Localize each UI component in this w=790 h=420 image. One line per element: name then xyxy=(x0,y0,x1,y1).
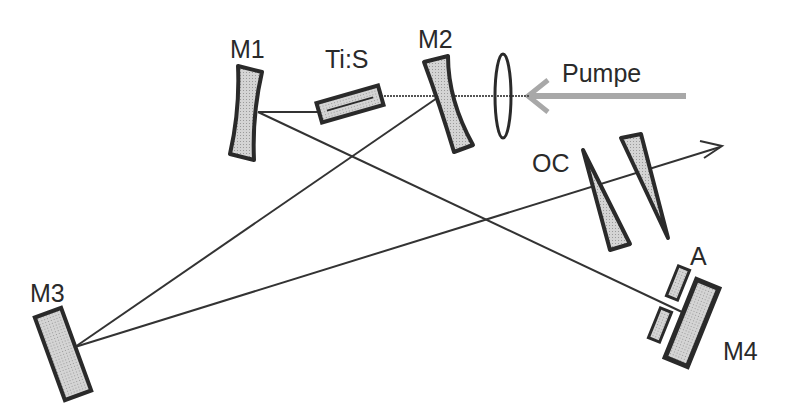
label-m3: M3 xyxy=(30,279,65,307)
mirror-m3 xyxy=(35,308,91,400)
label-m1: M1 xyxy=(230,35,265,63)
label-m4: M4 xyxy=(723,337,758,365)
crystal-tis xyxy=(316,86,383,123)
label-output-coupler: OC xyxy=(532,149,570,177)
diagram-svg: M1 Ti:S M2 Pumpe OC A M4 M3 xyxy=(0,0,790,420)
output-coupler-wedge-1 xyxy=(583,150,630,250)
label-m2: M2 xyxy=(418,25,453,53)
mirror-m1 xyxy=(230,66,262,160)
mirror-m2 xyxy=(424,56,473,152)
laser-cavity-diagram: M1 Ti:S M2 Pumpe OC A M4 M3 xyxy=(0,0,790,420)
label-pump: Pumpe xyxy=(562,59,641,87)
cavity-beams xyxy=(75,96,722,347)
label-aperture: A xyxy=(690,242,707,270)
output-coupler-wedge-2 xyxy=(621,134,668,238)
label-crystal: Ti:S xyxy=(325,45,369,73)
